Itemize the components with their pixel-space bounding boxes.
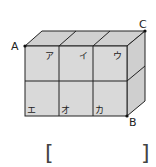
cube-label-o: オ — [61, 105, 70, 115]
cube-label-u: ウ — [113, 51, 122, 61]
cube-label-ka: カ — [95, 105, 104, 115]
cube-label-a: ア — [45, 51, 54, 61]
cube-label-i: イ — [79, 51, 88, 61]
answer-right-bracket: ] — [141, 140, 150, 165]
vertex-A-dot — [23, 44, 26, 47]
cuboid-diagram: A B C ア イ ウ エ オ カ [ ] — [0, 0, 156, 167]
vertex-B-label: B — [129, 116, 137, 129]
cube-label-e: エ — [27, 105, 36, 115]
answer-left-bracket: [ — [45, 140, 54, 165]
vertex-A-label: A — [11, 40, 19, 53]
top-face — [25, 31, 145, 46]
vertex-C-label: C — [139, 18, 147, 31]
